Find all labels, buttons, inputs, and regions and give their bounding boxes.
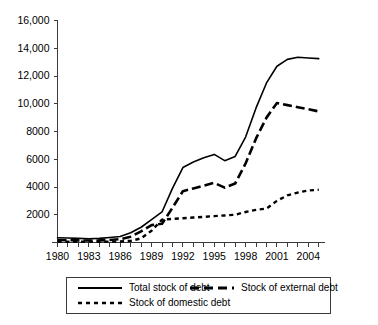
- y-axis-tick-labels: 16,00014,00012,00010,0008000600040002000: [17, 14, 49, 220]
- x-axis-tick-labels: 198019831986198919921995199820012004: [46, 250, 320, 262]
- y-tick-label: 16,000: [17, 14, 49, 26]
- x-tick-label: 1992: [171, 250, 195, 262]
- legend-item-label: Stock of external debt: [241, 282, 338, 293]
- chart-canvas: 16,00014,00012,00010,0008000600040002000…: [0, 0, 378, 325]
- y-tick-label: 8000: [26, 125, 50, 137]
- series-line-stock-of-domestic-debt: [58, 190, 319, 242]
- legend-item-label: Stock of domestic debt: [129, 297, 230, 308]
- x-tick-label: 1986: [109, 250, 133, 262]
- x-tick-label: 1998: [234, 250, 258, 262]
- x-axis: [52, 243, 326, 247]
- x-tick-label: 1980: [46, 250, 70, 262]
- y-axis: [54, 21, 58, 243]
- x-tick-label: 1989: [140, 250, 164, 262]
- series-lines: [58, 57, 319, 242]
- y-tick-label: 12,000: [17, 69, 49, 81]
- debt-stock-line-chart: 16,00014,00012,00010,0008000600040002000…: [0, 0, 378, 325]
- y-tick-label: 10,000: [17, 97, 49, 109]
- x-tick-label: 2001: [265, 250, 289, 262]
- y-tick-label: 6000: [26, 153, 50, 165]
- y-tick-label: 2000: [26, 208, 50, 220]
- x-tick-label: 1995: [203, 250, 227, 262]
- chart-legend: Total stock of debtStock of external deb…: [66, 277, 338, 313]
- series-line-total-stock-of-debt: [58, 57, 319, 238]
- series-line-stock-of-external-debt: [58, 103, 319, 241]
- x-tick-label: 2004: [297, 250, 321, 262]
- x-tick-label: 1983: [77, 250, 101, 262]
- y-tick-label: 14,000: [17, 42, 49, 54]
- y-tick-label: 4000: [26, 180, 50, 192]
